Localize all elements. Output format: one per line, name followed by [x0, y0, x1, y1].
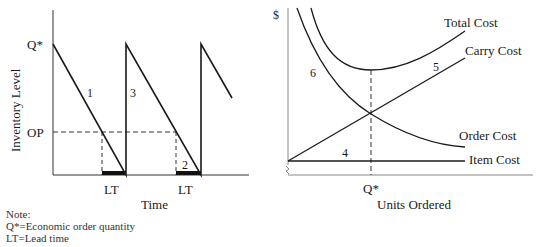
inventory-sawtooth: [53, 44, 232, 175]
segment-label-1: 1: [87, 86, 93, 100]
cost-chart: $ Total Cost Carry Cost Order Cost Item …: [273, 8, 533, 212]
axis-break-mark: [286, 166, 289, 174]
note-line-eoq: Q*=Economic order quantity: [6, 220, 135, 232]
carry-cost-label: Carry Cost: [465, 43, 522, 58]
q-star-tick-label: Q*: [27, 37, 43, 52]
lt-tick-label-2: LT: [178, 182, 193, 197]
order-cost-label: Order Cost: [459, 128, 517, 143]
time-axis-label: Time: [141, 197, 168, 212]
lt1-bar: [102, 171, 126, 175]
q-star-x-tick-label: Q*: [363, 181, 379, 196]
lt-tick-label-1: LT: [104, 182, 119, 197]
segment-label-6: 6: [310, 66, 316, 80]
inventory-level-axis-label: Inventory Level: [8, 68, 23, 152]
inventory-chart: Q* OP Inventory Level 1 3 2 LT LT Time: [8, 10, 249, 212]
total-cost-label: Total Cost: [444, 15, 498, 30]
total-cost-curve: [311, 8, 465, 70]
segment-label-4: 4: [342, 146, 348, 160]
units-ordered-axis-label: Units Ordered: [377, 197, 452, 212]
segment-label-3: 3: [130, 86, 136, 100]
note-line-lt: LT=Lead time: [6, 232, 135, 244]
op-tick-label: OP: [27, 125, 44, 140]
segment-label-5: 5: [433, 60, 439, 74]
segment-label-2: 2: [182, 158, 188, 172]
dollar-axis-label: $: [273, 8, 279, 22]
order-cost-curve: [297, 8, 465, 147]
note-heading: Note:: [6, 208, 135, 220]
lt2-bar: [176, 171, 201, 175]
item-cost-label: Item Cost: [469, 152, 520, 167]
note-block: Note: Q*=Economic order quantity LT=Lead…: [6, 208, 135, 244]
